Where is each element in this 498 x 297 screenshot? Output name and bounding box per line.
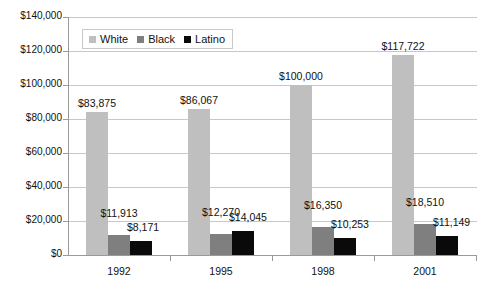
bar-value-label-black-2001: $18,510 — [399, 196, 451, 208]
bar-value-label-white-1998: $100,000 — [274, 70, 328, 82]
gridline — [69, 119, 477, 120]
x-category-label-2001: 2001 — [374, 265, 476, 277]
y-tick-label: $80,000 — [0, 113, 62, 123]
legend-item-latino[interactable]: Latino — [184, 33, 225, 45]
bar-value-label-white-2001: $117,722 — [376, 40, 430, 52]
legend-swatch-latino-icon — [184, 36, 191, 43]
bar-value-label-latino-2001: $11,149 — [433, 216, 485, 228]
bar-value-label-black-1992: $11,913 — [93, 207, 145, 219]
bar-value-label-latino-1998: $10,253 — [331, 218, 383, 230]
legend-label: Black — [148, 33, 175, 45]
y-tick-label: $100,000 — [0, 79, 62, 89]
bar-value-label-latino-1995: $14,045 — [229, 211, 281, 223]
bar-latino-2001 — [436, 236, 458, 255]
bar-value-label-black-1998: $16,350 — [297, 199, 349, 211]
y-tick-label: $40,000 — [0, 181, 62, 191]
gridline — [69, 153, 477, 154]
legend-item-black[interactable]: Black — [137, 33, 175, 45]
y-tick-label: $140,000 — [0, 11, 62, 21]
bar-black-1998 — [312, 227, 334, 255]
x-category-label-1998: 1998 — [272, 265, 374, 277]
bar-white-2001 — [392, 55, 414, 255]
bar-black-1995 — [210, 234, 232, 255]
x-category-label-1992: 1992 — [68, 265, 170, 277]
y-axis: $0$20,000$40,000$60,000$80,000$100,000$1… — [0, 0, 64, 297]
legend-swatch-white-icon — [89, 36, 96, 43]
bar-value-label-white-1992: $83,875 — [70, 97, 124, 109]
x-tick-mark — [272, 255, 273, 261]
bar-latino-1995 — [232, 231, 254, 255]
bar-white-1998 — [290, 85, 312, 255]
bar-value-label-latino-1992: $8,171 — [127, 221, 179, 233]
bar-black-2001 — [414, 224, 436, 255]
x-tick-mark — [170, 255, 171, 261]
legend-label: White — [100, 33, 128, 45]
legend-label: Latino — [195, 33, 225, 45]
gridline — [69, 17, 477, 18]
gridline — [69, 187, 477, 188]
bar-white-1992 — [86, 112, 108, 255]
y-tick-label: $20,000 — [0, 215, 62, 225]
bar-black-1992 — [108, 235, 130, 255]
legend-swatch-black-icon — [137, 36, 144, 43]
x-category-label-1995: 1995 — [170, 265, 272, 277]
y-tick-label: $0 — [0, 249, 62, 259]
x-tick-mark — [374, 255, 375, 261]
bar-value-label-white-1995: $86,067 — [172, 94, 226, 106]
y-tick-label: $120,000 — [0, 45, 62, 55]
legend: WhiteBlackLatino — [82, 29, 233, 49]
bar-chart: $0$20,000$40,000$60,000$80,000$100,000$1… — [0, 0, 498, 297]
legend-item-white[interactable]: White — [89, 33, 128, 45]
y-tick-label: $60,000 — [0, 147, 62, 157]
x-tick-mark — [476, 255, 477, 261]
bar-latino-1998 — [334, 238, 356, 255]
bar-latino-1992 — [130, 241, 152, 255]
bar-white-1995 — [188, 109, 210, 255]
gridline — [69, 85, 477, 86]
